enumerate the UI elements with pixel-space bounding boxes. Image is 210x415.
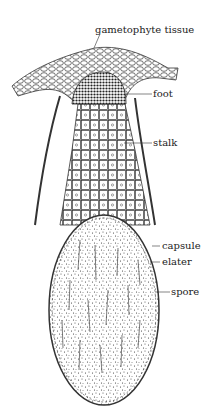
label-gametophyte-tissue: gametophyte tissue [95,25,194,35]
sporophyte-diagram [0,0,210,415]
stalk [60,104,150,225]
label-elater: elater [162,257,192,267]
capsule [49,215,159,405]
label-spore: spore [171,287,199,297]
calyptra-left [35,96,60,225]
label-capsule: capsule [162,241,201,251]
label-foot: foot [153,89,173,99]
label-stalk: stalk [153,138,177,148]
